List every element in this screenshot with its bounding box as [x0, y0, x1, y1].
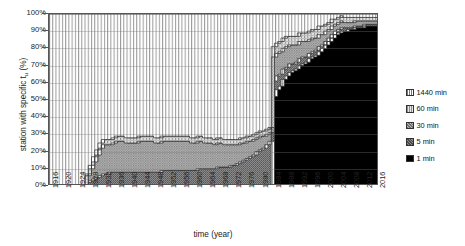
x-axis-tick-label: 1924: [78, 172, 87, 188]
y-axis-tick-mark: [42, 133, 48, 134]
x-axis-tick-label: 1940: [130, 172, 139, 188]
legend-swatch-icon: [406, 105, 414, 113]
legend-item: 1440 min: [406, 88, 465, 97]
y-axis-tick-labels: 0%10%20%30%40%50%60%70%80%90%100%: [14, 8, 46, 188]
x-axis-tick-label: 2000: [326, 172, 335, 188]
y-axis-tick-mark: [42, 30, 48, 31]
x-axis-tick-label: 1972: [234, 172, 243, 188]
y-axis-tick-mark: [42, 13, 48, 14]
x-axis-tick-label: 1988: [287, 172, 296, 188]
x-axis-tick-label: 1964: [208, 172, 217, 188]
x-axis-tick-label: 1992: [300, 172, 309, 188]
y-axis-tick-mark: [42, 168, 48, 169]
x-axis-tick-label: 2004: [339, 172, 348, 188]
x-axis-tick-label: 1952: [169, 172, 178, 188]
y-axis-tick-mark: [42, 82, 48, 83]
chart-legend: 1440 min60 min30 min5 min1 min: [406, 88, 465, 171]
x-axis-title: time (year): [48, 230, 378, 239]
y-axis-tick-mark: [42, 185, 48, 186]
x-axis-tick-label: 1920: [64, 172, 73, 188]
legend-item: 5 min: [406, 138, 465, 147]
x-axis-tick-labels: 1916192019241928193219361940194419481952…: [48, 188, 378, 228]
x-axis-tick-label: 2012: [365, 172, 374, 188]
y-axis-tick-mark: [42, 116, 48, 117]
plot-area: [48, 13, 378, 185]
legend-item: 60 min: [406, 105, 465, 114]
x-axis-tick-label: 1960: [195, 172, 204, 188]
legend-swatch-icon: [406, 89, 414, 97]
chart-container: station with specific tu (%) 0%10%20%30%…: [0, 0, 465, 246]
legend-swatch-icon: [406, 122, 414, 130]
x-axis-tick-label: 1996: [313, 172, 322, 188]
legend-swatch-icon: [406, 155, 414, 163]
x-axis-tick-label: 1980: [261, 172, 270, 188]
y-axis-tick-mark: [42, 99, 48, 100]
x-axis-tick-label: 1948: [156, 172, 165, 188]
y-axis-tick-mark: [42, 151, 48, 152]
x-axis-tick-label: 1968: [221, 172, 230, 188]
stacked-area-series: [49, 14, 378, 185]
legend-item: 1 min: [406, 154, 465, 163]
legend-swatch-icon: [406, 138, 414, 146]
legend-item: 30 min: [406, 121, 465, 130]
y-axis-tick-mark: [42, 65, 48, 66]
x-axis-tick-label: 2016: [378, 172, 387, 188]
x-axis-tick-label: 1936: [117, 172, 126, 188]
y-axis-tick-mark: [42, 47, 48, 48]
legend-label: 60 min: [417, 105, 439, 112]
legend-label: 1440 min: [417, 89, 447, 96]
x-axis-tick-label: 2008: [352, 172, 361, 188]
x-axis-tick-label: 1916: [51, 172, 60, 188]
legend-label: 30 min: [417, 122, 439, 129]
x-axis-tick-label: 1944: [143, 172, 152, 188]
x-axis-tick-label: 1956: [182, 172, 191, 188]
x-axis-tick-label: 1928: [91, 172, 100, 188]
x-axis-tick-label: 1976: [247, 172, 256, 188]
legend-label: 5 min: [417, 138, 435, 145]
x-axis-tick-label: 1932: [104, 172, 113, 188]
x-axis-tick-label: 1984: [274, 172, 283, 188]
legend-label: 1 min: [417, 155, 435, 162]
